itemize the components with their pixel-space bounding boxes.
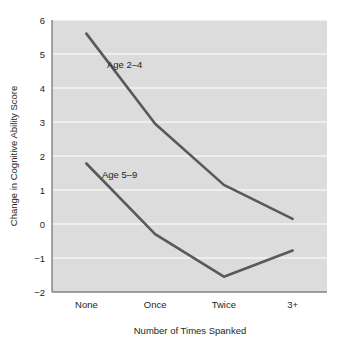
series-label-age-5-9: Age 5–9 — [102, 169, 137, 180]
chart-figure: 6543210−1−2 NoneOnceTwice3+ Age 2–4 Age … — [0, 0, 342, 343]
x-axis-title: Number of Times Spanked — [134, 325, 246, 336]
series-label-age-2-4: Age 2–4 — [107, 59, 142, 70]
y-axis-title: Change in Cognitive Ability Score — [8, 86, 19, 226]
y-axis-tick-labels: 6543210−1−2 — [34, 15, 45, 298]
y-tick-label: −1 — [34, 253, 45, 264]
y-tick-label: 1 — [40, 185, 45, 196]
y-tick-label: 6 — [40, 15, 45, 26]
x-tick-label: 3+ — [287, 299, 298, 310]
x-tick-label: Once — [144, 299, 167, 310]
x-tick-label: Twice — [212, 299, 236, 310]
y-tick-label: 5 — [40, 49, 45, 60]
y-tick-label: 2 — [40, 151, 45, 162]
x-tick-label: None — [75, 299, 98, 310]
y-tick-label: −2 — [34, 287, 45, 298]
y-tick-label: 3 — [40, 117, 45, 128]
y-tick-label: 0 — [40, 219, 45, 230]
x-axis-tick-labels: NoneOnceTwice3+ — [75, 299, 298, 310]
line-chart: 6543210−1−2 NoneOnceTwice3+ Age 2–4 Age … — [0, 0, 342, 343]
y-tick-label: 4 — [40, 83, 45, 94]
